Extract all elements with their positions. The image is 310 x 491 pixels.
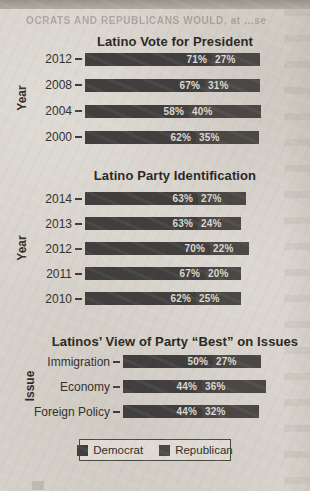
bar-row: 200062%35%: [0, 124, 310, 150]
bar-segment-republican: 20%: [205, 267, 241, 280]
category-label: 2011: [0, 267, 75, 281]
legend-label: Republican: [175, 444, 233, 456]
stacked-bar: 67%20%: [85, 267, 241, 280]
value-label-republican: 22%: [213, 242, 234, 255]
bar-rows: Immigration50%27%Economy44%36%Foreign Po…: [0, 349, 310, 424]
category-label: 2004: [0, 104, 75, 118]
bar-segment-republican: 40%: [189, 105, 261, 118]
value-label-republican: 27%: [216, 355, 237, 368]
bar-row: 201270%22%: [0, 236, 310, 261]
bar-segment-democrat: 70%: [85, 242, 210, 255]
bar-row: 201062%25%: [0, 286, 310, 311]
axis-tick: [75, 58, 82, 60]
value-label-republican: 40%: [192, 105, 213, 118]
scan-edge-band: [0, 0, 310, 9]
category-label: 2013: [0, 217, 75, 231]
bar-segment-democrat: 58%: [85, 105, 189, 118]
bar-row: 201463%27%: [0, 186, 310, 211]
bar-segment-republican: 31%: [205, 79, 260, 92]
bar-segment-republican: 36%: [202, 380, 266, 393]
bar-segment-democrat: 50%: [123, 355, 213, 368]
value-label-republican: 25%: [199, 292, 220, 305]
value-label-democrat: 44%: [176, 380, 197, 393]
value-label-democrat: 63%: [172, 192, 193, 205]
value-label-democrat: 71%: [186, 53, 207, 66]
bar-segment-republican: 25%: [196, 292, 241, 305]
axis-tick: [75, 84, 82, 86]
chart-title: Latinos’ View of Party “Best” on Issues: [35, 334, 310, 349]
stacked-bar: 63%24%: [85, 217, 241, 230]
value-label-democrat: 62%: [170, 292, 191, 305]
stacked-bar: 67%31%: [85, 79, 260, 92]
legend: Democrat Republican: [79, 439, 231, 461]
value-label-republican: 20%: [208, 267, 229, 280]
bar-segment-democrat: 62%: [85, 131, 196, 144]
value-label-republican: 24%: [201, 217, 222, 230]
bar-segment-democrat: 44%: [123, 380, 202, 393]
axis-tick: [75, 110, 82, 112]
axis-tick: [75, 273, 82, 275]
category-label: 2012: [0, 242, 75, 256]
axis-tick: [113, 411, 120, 413]
category-label: Foreign Policy: [0, 405, 113, 419]
value-label-republican: 27%: [215, 53, 236, 66]
stacked-bar: 50%27%: [123, 355, 261, 368]
axis-tick: [75, 136, 82, 138]
category-label: 2014: [0, 192, 75, 206]
bar-row: 201167%20%: [0, 261, 310, 286]
category-label: 2000: [0, 130, 75, 144]
value-label-democrat: 62%: [170, 131, 191, 144]
bar-segment-democrat: 67%: [85, 79, 205, 92]
chart-latino-vote-for-president: Latino Vote for President Year 201271%27…: [0, 34, 310, 166]
republican-swatch-icon: [159, 445, 170, 456]
bar-row: 201271%27%: [0, 46, 310, 72]
bar-segment-democrat: 63%: [85, 217, 198, 230]
value-label-republican: 35%: [199, 131, 220, 144]
legend-item-republican: Republican: [159, 444, 233, 456]
value-label-democrat: 50%: [187, 355, 208, 368]
bleedthrough-bottom-mark: [32, 481, 44, 490]
value-label-republican: 27%: [201, 192, 222, 205]
bar-row: 201363%24%: [0, 211, 310, 236]
chart-latinos-view-party-best-issues: Latinos’ View of Party “Best” on Issues …: [0, 330, 310, 430]
bar-row: 200458%40%: [0, 98, 310, 124]
value-label-republican: 31%: [208, 79, 229, 92]
chart-latino-party-identification: Latino Party Identification Year 201463%…: [0, 166, 310, 318]
axis-tick: [75, 248, 82, 250]
bar-rows: 201463%27%201363%24%201270%22%201167%20%…: [0, 186, 310, 311]
axis-tick: [75, 198, 82, 200]
stacked-bar: 58%40%: [85, 105, 261, 118]
legend-label: Democrat: [93, 444, 143, 456]
bar-row: Immigration50%27%: [0, 349, 310, 374]
bar-segment-republican: 32%: [202, 405, 259, 418]
axis-tick: [75, 223, 82, 225]
axis-tick: [75, 298, 82, 300]
stacked-bar: 71%27%: [85, 53, 260, 66]
bar-segment-democrat: 67%: [85, 267, 205, 280]
bar-row: Economy44%36%: [0, 374, 310, 399]
bar-segment-democrat: 71%: [85, 53, 212, 66]
value-label-democrat: 63%: [172, 217, 193, 230]
stacked-bar: 44%32%: [123, 405, 259, 418]
stacked-bar: 63%27%: [85, 192, 246, 205]
bar-segment-republican: 22%: [210, 242, 249, 255]
bar-segment-democrat: 63%: [85, 192, 198, 205]
bar-segment-democrat: 44%: [123, 405, 202, 418]
value-label-republican: 36%: [205, 380, 226, 393]
value-label-democrat: 67%: [179, 79, 200, 92]
bar-rows: 201271%27%200867%31%200458%40%200062%35%: [0, 46, 310, 150]
value-label-democrat: 70%: [184, 242, 205, 255]
bar-row: 200867%31%: [0, 72, 310, 98]
category-label: 2010: [0, 292, 75, 306]
category-label: Economy: [0, 380, 113, 394]
bar-segment-democrat: 62%: [85, 292, 196, 305]
bar-segment-republican: 27%: [213, 355, 261, 368]
stacked-bar: 44%36%: [123, 380, 266, 393]
stacked-bar: 62%25%: [85, 292, 241, 305]
scanned-page: OCRATS AND REPUBLICANS WOULD, at ...se L…: [0, 0, 310, 491]
bleedthrough-text: OCRATS AND REPUBLICANS WOULD, at ...se: [26, 15, 298, 26]
stacked-bar: 70%22%: [85, 242, 249, 255]
value-label-democrat: 67%: [179, 267, 200, 280]
bar-segment-republican: 27%: [198, 192, 246, 205]
axis-tick: [113, 361, 120, 363]
